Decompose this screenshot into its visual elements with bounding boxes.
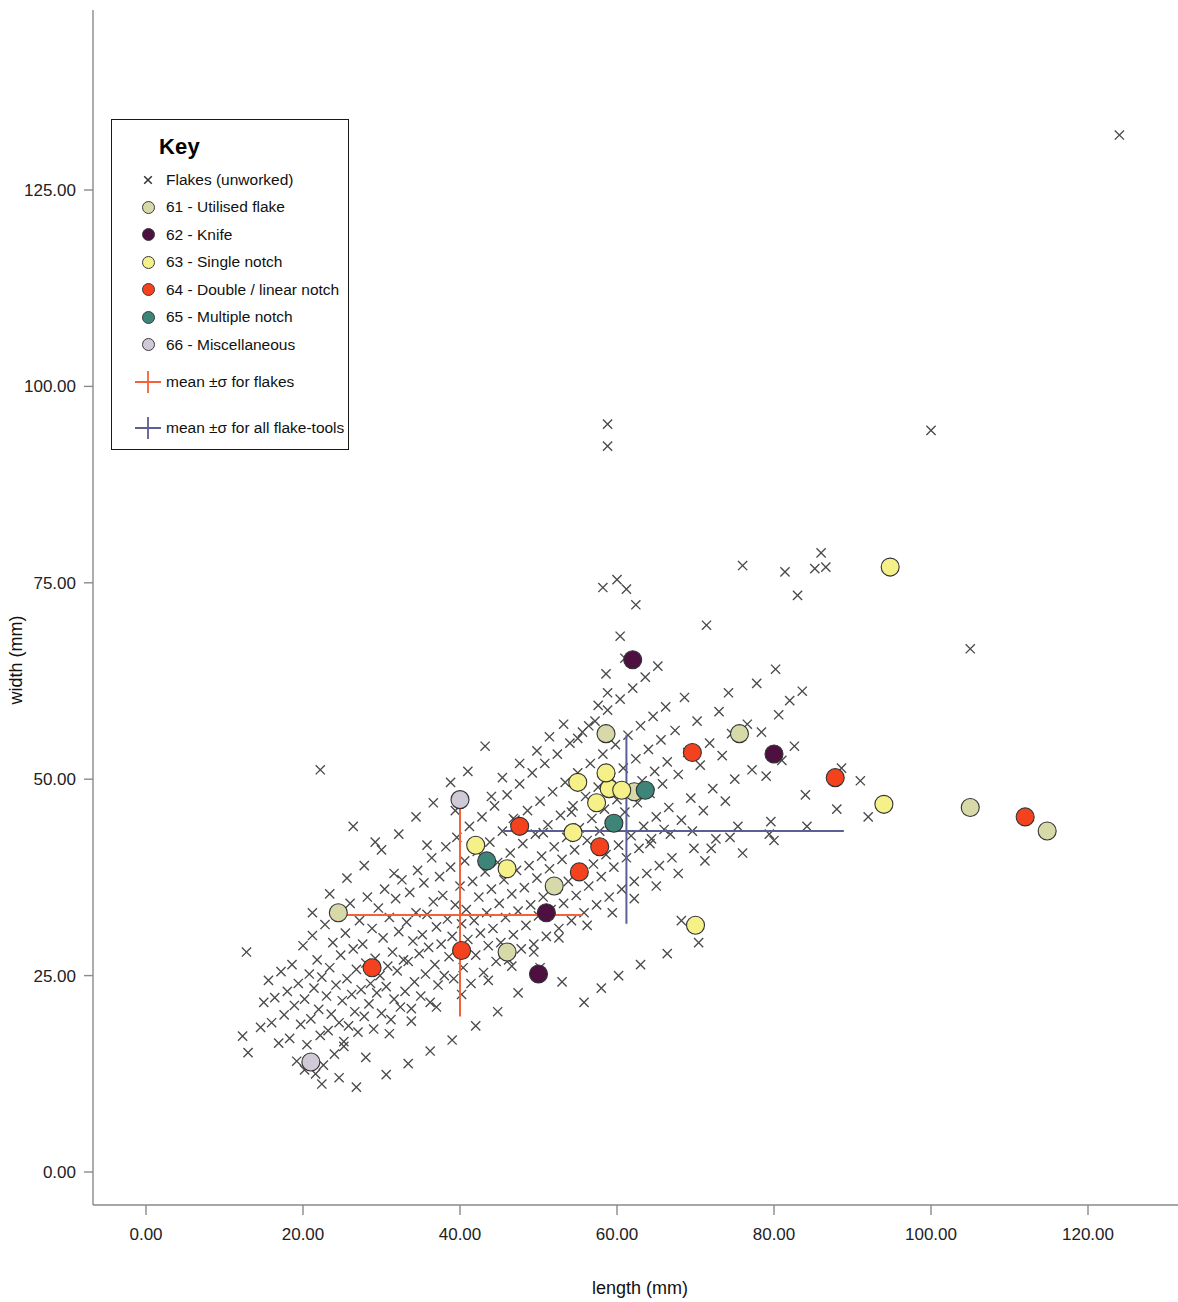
flake-point <box>614 841 623 850</box>
flake-point <box>523 806 532 815</box>
legend-item-double-notch: 64 - Double / linear notch <box>112 276 348 304</box>
flake-point <box>331 980 340 989</box>
flake-point <box>360 861 369 870</box>
flake-point <box>316 765 325 774</box>
flake-point <box>540 759 549 768</box>
flake-point <box>810 564 819 573</box>
flake-point <box>609 863 618 872</box>
flake-point <box>404 1059 413 1068</box>
flake-point <box>419 878 428 887</box>
legend-label-mean-flakes: mean ±σ for flakes <box>166 373 294 391</box>
flake-point <box>242 947 251 956</box>
tool-point <box>511 817 529 835</box>
flake-point <box>238 1031 247 1040</box>
x-tick-label: 80.00 <box>753 1225 796 1244</box>
flake-point <box>674 869 683 878</box>
flake-point <box>663 949 672 958</box>
flake-point <box>479 968 488 977</box>
flake-point <box>396 1002 405 1011</box>
flake-point <box>352 965 361 974</box>
flake-point <box>663 757 672 766</box>
flake-point <box>367 924 376 933</box>
flake-point <box>521 921 530 930</box>
flake-point <box>300 995 309 1004</box>
flake-point <box>432 922 441 931</box>
flake-point <box>597 872 606 881</box>
flake-point <box>554 933 563 942</box>
flake-point <box>548 787 557 796</box>
circle-marker-icon-64 <box>130 283 166 296</box>
flake-point <box>448 1035 457 1044</box>
flake-point <box>256 1023 265 1032</box>
flake-point <box>460 856 469 865</box>
tool-point <box>530 965 548 983</box>
flake-point <box>677 916 686 925</box>
flake-point <box>584 881 593 890</box>
flake-point <box>363 892 372 901</box>
flake-point <box>649 712 658 721</box>
flake-point <box>677 815 686 824</box>
y-axis-title: width (mm) <box>6 616 26 706</box>
flake-point <box>457 990 466 999</box>
flake-point <box>360 1012 369 1021</box>
flake-point <box>702 621 711 630</box>
flake-point <box>435 872 444 881</box>
flake-point <box>707 844 716 853</box>
flake-point <box>276 967 285 976</box>
y-tick-label: 125.00 <box>24 181 76 200</box>
flake-point <box>529 940 538 949</box>
tool-point <box>1016 808 1034 826</box>
flake-point <box>383 962 392 971</box>
legend-label-64: 64 - Double / linear notch <box>166 281 339 299</box>
flake-point <box>430 960 439 969</box>
legend-title: Key <box>159 134 348 160</box>
flake-point <box>465 822 474 831</box>
flake-point <box>341 929 350 938</box>
flake-point <box>661 702 670 711</box>
flake-point <box>313 955 322 964</box>
flake-point <box>730 775 739 784</box>
x-tick-label: 120.00 <box>1062 1225 1114 1244</box>
flake-point <box>449 974 458 983</box>
flake-point <box>660 825 669 834</box>
flake-point <box>283 987 292 996</box>
axis-titles-group: length (mm)width (mm) <box>6 616 688 1299</box>
legend-box: Key Flakes (unworked) 61 - Utilised flak… <box>111 119 349 450</box>
flake-point <box>350 1007 359 1016</box>
flake-point <box>689 844 698 853</box>
flake-point <box>587 814 596 823</box>
flake-point <box>391 894 400 903</box>
flake-point <box>696 760 705 769</box>
flake-point <box>411 812 420 821</box>
tool-point <box>498 943 516 961</box>
flake-point <box>361 1053 370 1062</box>
flake-point <box>520 883 529 892</box>
flake-point <box>287 960 296 969</box>
flake-point <box>757 727 766 736</box>
flake-point <box>274 1039 283 1048</box>
flake-point <box>338 996 347 1005</box>
circle-marker-icon-61 <box>130 201 166 214</box>
flake-point <box>614 971 623 980</box>
flake-point <box>705 738 714 747</box>
flake-point <box>639 822 648 831</box>
tool-point <box>363 959 381 977</box>
flake-point <box>470 916 479 925</box>
flake-point <box>446 863 455 872</box>
tool-point <box>451 791 469 809</box>
flake-points-group <box>238 130 1124 1091</box>
flake-point <box>418 930 427 939</box>
flake-point <box>429 798 438 807</box>
flake-point <box>634 844 643 853</box>
flake-point <box>394 830 403 839</box>
flake-point <box>485 837 494 846</box>
flake-point <box>832 804 841 813</box>
flake-point <box>320 920 329 929</box>
flake-point <box>457 919 466 928</box>
flake-point <box>302 1040 311 1049</box>
flake-point <box>484 976 493 985</box>
flake-point <box>559 720 568 729</box>
flake-point <box>583 921 592 930</box>
flake-point <box>801 790 810 799</box>
tool-point <box>569 773 587 791</box>
